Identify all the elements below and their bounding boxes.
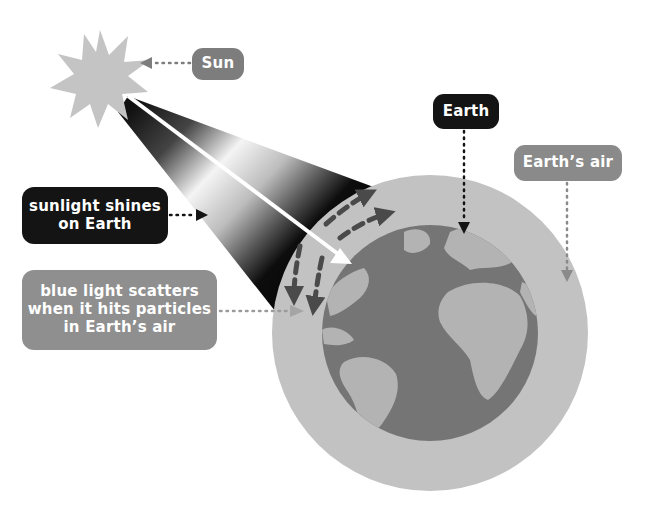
sun-pointer-icon	[140, 57, 190, 69]
scatter-label: blue light scatters when it hits particl…	[22, 270, 217, 350]
sun-label-text: Sun	[202, 55, 235, 73]
sky-scattering-diagram: Sun Earth Earth’s air sunlight shines on…	[0, 0, 647, 508]
earth-label-text: Earth	[443, 103, 490, 121]
scatter-label-text: blue light scatters when it hits particl…	[28, 283, 211, 336]
earths-air-label-text: Earth’s air	[523, 154, 613, 172]
sun-label: Sun	[192, 48, 244, 80]
globe-icon	[322, 225, 538, 441]
earth-label: Earth	[433, 94, 499, 129]
sunlight-label-text: sunlight shines on Earth	[29, 198, 161, 233]
scatter-pointer-icon	[220, 305, 304, 317]
diagram-canvas	[0, 0, 647, 508]
sunlight-label: sunlight shines on Earth	[22, 187, 168, 244]
earths-air-label: Earth’s air	[514, 145, 622, 181]
